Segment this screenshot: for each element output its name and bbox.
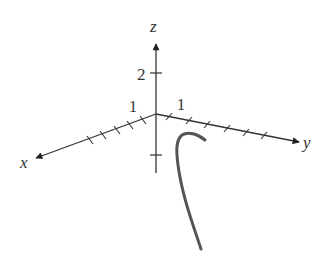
- x-tick-label: 1: [129, 98, 137, 115]
- y-axis-label: y: [301, 133, 311, 152]
- 3d-axes-diagram: z 2 1 1 x y: [0, 0, 332, 260]
- space-curve: [177, 133, 205, 249]
- z-tick-label: 2: [137, 65, 146, 84]
- z-axis-label: z: [149, 17, 157, 36]
- x-axis-label: x: [19, 153, 28, 172]
- x-axis: [36, 114, 156, 158]
- y-tick-label: 1: [177, 96, 185, 113]
- y-axis: [156, 113, 299, 142]
- z-axis: [150, 44, 162, 173]
- x-ticks: [87, 116, 146, 144]
